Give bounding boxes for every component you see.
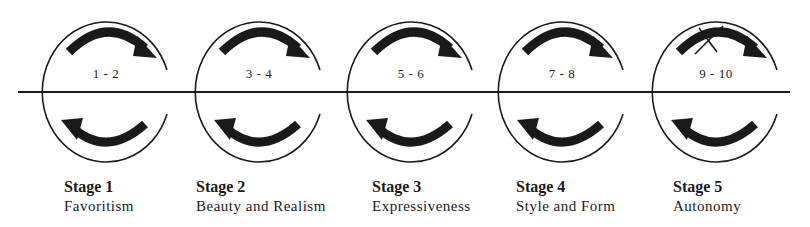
stage-title: Stage 5	[673, 178, 741, 196]
stage-label: Stage 4Style and Form	[516, 178, 616, 216]
age-range: 7 - 8	[549, 66, 575, 82]
stage-subtitle: Favoritism	[64, 196, 134, 216]
stage-subtitle: Autonomy	[673, 196, 741, 216]
stage-subtitle: Style and Form	[516, 196, 616, 216]
age-range: 3 - 4	[246, 66, 272, 82]
age-range: 9 - 10	[699, 66, 732, 82]
age-range: 5 - 6	[398, 66, 424, 82]
stage-label: Stage 5Autonomy	[673, 178, 741, 216]
stage-title: Stage 2	[196, 178, 326, 196]
stage-label: Stage 2Beauty and Realism	[196, 178, 326, 216]
stage-label: Stage 1Favoritism	[64, 178, 134, 216]
stage-subtitle: Beauty and Realism	[196, 196, 326, 216]
stage-title: Stage 4	[516, 178, 616, 196]
stage-label: Stage 3Expressiveness	[372, 178, 471, 216]
stage-title: Stage 1	[64, 178, 134, 196]
stage-title: Stage 3	[372, 178, 471, 196]
age-range: 1 - 2	[93, 66, 119, 82]
stage-subtitle: Expressiveness	[372, 196, 471, 216]
